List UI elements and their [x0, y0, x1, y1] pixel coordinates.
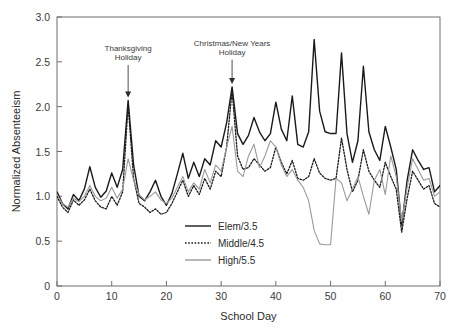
- annotation-arrow-head: [229, 78, 235, 84]
- chart-canvas: 00.51.01.52.02.53.0010203040506070School…: [0, 0, 469, 331]
- x-axis-tick-label: 20: [161, 290, 173, 302]
- x-axis-title: School Day: [220, 310, 277, 322]
- annotation-label: Holiday: [115, 53, 142, 62]
- x-axis-tick-label: 40: [270, 290, 282, 302]
- series-line-middle: [57, 91, 440, 233]
- legend-label: Middle/4.5: [218, 238, 265, 249]
- x-axis-tick-label: 50: [325, 290, 337, 302]
- x-axis-tick-label: 60: [379, 290, 391, 302]
- annotation-label: Thanksgiving: [105, 44, 152, 53]
- x-axis-tick-label: 70: [434, 290, 446, 302]
- legend-label: Elem/3.5: [218, 221, 258, 232]
- absenteeism-line-chart: 00.51.01.52.02.53.0010203040506070School…: [0, 0, 469, 331]
- x-axis-tick-label: 0: [54, 290, 60, 302]
- y-axis-tick-label: 2.5: [35, 56, 50, 68]
- series-line-elem: [57, 39, 440, 225]
- y-axis-tick-label: 3.0: [35, 11, 50, 23]
- y-axis-tick-label: 0: [44, 280, 50, 292]
- x-axis-tick-label: 30: [215, 290, 227, 302]
- y-axis-tick-label: 1.0: [35, 190, 50, 202]
- y-axis-title: Normalized Absenteeism: [10, 91, 22, 213]
- x-axis-tick-label: 10: [106, 290, 118, 302]
- annotation-arrow-head: [125, 91, 131, 97]
- y-axis-tick-label: 1.5: [35, 146, 50, 158]
- annotation-label: Holiday: [219, 48, 246, 57]
- y-axis-tick-label: 2.0: [35, 101, 50, 113]
- annotation-label: Christmas/New Years: [194, 39, 270, 48]
- legend-label: High/5.5: [218, 255, 256, 266]
- y-axis-tick-label: 0.5: [35, 235, 50, 247]
